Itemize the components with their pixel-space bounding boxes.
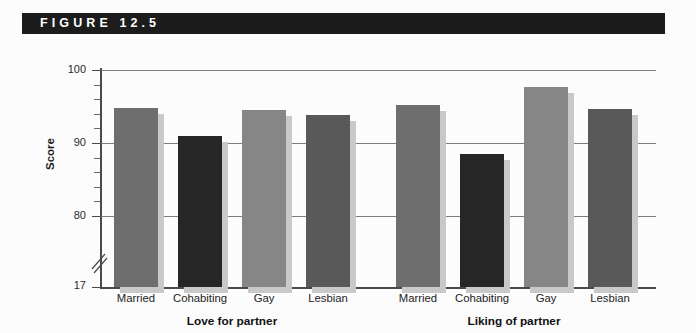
- x-axis-category-label: Gay: [514, 292, 578, 304]
- y-axis-tick-label: 90: [52, 136, 86, 148]
- x-axis-category-label: Lesbian: [578, 292, 642, 304]
- bar: [178, 136, 222, 287]
- bar: [588, 109, 632, 287]
- y-axis-major-tick: [92, 143, 101, 144]
- x-axis-category-label: Cohabiting: [168, 292, 232, 304]
- y-axis-major-tick: [92, 216, 101, 217]
- y-axis-tick-label: 80: [52, 209, 86, 221]
- y-axis-minor-tick: [94, 128, 100, 129]
- y-axis-tick-label: 100: [52, 63, 86, 75]
- x-axis-category-label: Married: [104, 292, 168, 304]
- figure-number-label: FIGURE 12.5: [40, 16, 160, 30]
- bar: [524, 87, 568, 287]
- bar: [396, 105, 440, 287]
- y-axis-major-tick: [92, 70, 101, 71]
- bar: [242, 110, 286, 287]
- y-axis-minor-tick: [94, 85, 100, 86]
- y-axis-break-label: 17: [52, 279, 86, 291]
- figure-banner: FIGURE 12.5: [22, 13, 665, 34]
- gridline: [101, 70, 656, 71]
- x-axis-group-label: Liking of partner: [396, 314, 632, 328]
- chart-plot-area: Score 809010017 MarriedCohabitingGayLesb…: [22, 40, 665, 305]
- y-axis-break-tick: [92, 287, 101, 288]
- y-axis-minor-tick: [94, 158, 100, 159]
- y-axis-minor-tick: [94, 201, 100, 202]
- bar: [114, 108, 158, 287]
- y-axis-title: Score: [44, 114, 56, 194]
- x-axis-group-label: Love for partner: [114, 314, 350, 328]
- y-axis-minor-tick: [94, 187, 100, 188]
- x-axis-category-label: Cohabiting: [450, 292, 514, 304]
- y-axis-minor-tick: [94, 172, 100, 173]
- x-axis-category-label: Married: [386, 292, 450, 304]
- figure-container: FIGURE 12.5 Score 809010017 MarriedCohab…: [0, 0, 696, 333]
- y-axis-minor-tick: [94, 99, 100, 100]
- x-axis-category-label: Lesbian: [296, 292, 360, 304]
- y-axis-minor-tick: [94, 114, 100, 115]
- bar: [306, 115, 350, 287]
- x-axis-category-label: Gay: [232, 292, 296, 304]
- bar: [460, 154, 504, 287]
- axis-break-icon: [91, 253, 111, 279]
